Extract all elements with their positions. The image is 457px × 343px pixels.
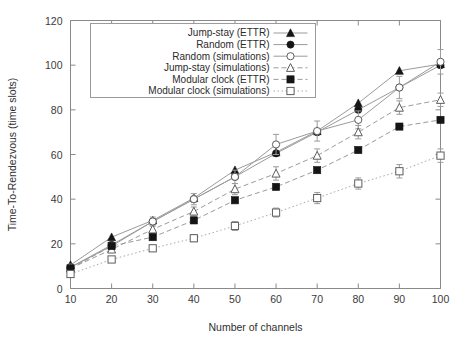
chart-legend: Jump-stay (ETTR)Random (ETTR)Random (sim…: [91, 24, 316, 98]
marker-filled-square: [287, 76, 294, 83]
marker-open-square: [396, 168, 403, 175]
x-tick-label: 80: [352, 293, 364, 305]
chart-plot: 020406080100120102030405060708090100 Jum…: [0, 0, 457, 343]
legend-label-1: Jump-stay (ETTR): [188, 27, 270, 38]
chart-container: 020406080100120102030405060708090100 Jum…: [0, 0, 457, 343]
series-5: [67, 116, 444, 272]
marker-open-triangle: [437, 96, 445, 104]
marker-filled-triangle: [108, 233, 116, 241]
y-tick-label: 20: [51, 238, 63, 250]
x-tick-label: 100: [432, 293, 450, 305]
x-tick-label: 60: [270, 293, 282, 305]
x-tick-label: 30: [147, 293, 159, 305]
marker-filled-square: [272, 183, 279, 190]
marker-open-circle: [437, 58, 444, 65]
marker-open-square: [67, 270, 74, 277]
y-tick-label: 60: [51, 149, 63, 161]
marker-filled-square: [437, 116, 444, 123]
marker-open-square: [272, 209, 279, 216]
legend-label-4: Jump-stay (simulations): [164, 62, 270, 73]
marker-open-square: [437, 152, 444, 159]
legend-label-6: Modular clock (simulations): [148, 85, 269, 96]
y-tick-label: 100: [45, 59, 63, 71]
series-line: [71, 120, 441, 269]
marker-filled-square: [314, 167, 321, 174]
y-tick-label: 40: [51, 193, 63, 205]
legend-label-5: Modular clock (ETTR): [172, 74, 269, 85]
marker-open-square: [287, 87, 294, 94]
y-tick-label: 80: [51, 104, 63, 116]
marker-open-circle: [190, 196, 197, 203]
marker-open-square: [108, 256, 115, 263]
marker-filled-triangle: [354, 99, 362, 107]
legend-label-2: Random (ETTR): [196, 39, 269, 50]
marker-open-circle: [396, 84, 403, 91]
marker-filled-square: [231, 197, 238, 204]
marker-open-square: [190, 235, 197, 242]
marker-open-triangle: [272, 169, 280, 177]
marker-open-square: [149, 245, 156, 252]
legend-label-3: Random (simulations): [172, 51, 269, 62]
marker-filled-circle: [287, 41, 294, 48]
series-line: [71, 100, 441, 269]
marker-open-circle: [149, 218, 156, 225]
marker-filled-square: [396, 123, 403, 130]
x-tick-label: 10: [65, 293, 77, 305]
x-tick-label: 50: [229, 293, 241, 305]
series-line: [71, 156, 441, 274]
x-tick-label: 40: [188, 293, 200, 305]
marker-open-square: [314, 194, 321, 201]
marker-open-square: [355, 180, 362, 187]
marker-filled-square: [355, 146, 362, 153]
x-tick-label: 90: [394, 293, 406, 305]
x-tick-label: 70: [311, 293, 323, 305]
y-axis-title: Time-To-Rendezvous (time slots): [6, 78, 18, 232]
marker-open-circle: [355, 116, 362, 123]
marker-open-triangle: [313, 151, 321, 159]
series-4: [67, 93, 445, 272]
marker-open-circle: [287, 53, 294, 60]
y-tick-label: 120: [45, 15, 63, 27]
marker-open-triangle: [190, 207, 198, 215]
x-tick-label: 20: [106, 293, 118, 305]
marker-open-circle: [314, 127, 321, 134]
marker-filled-square: [190, 217, 197, 224]
y-tick-label: 0: [57, 283, 63, 295]
marker-open-square: [231, 222, 238, 229]
marker-open-circle: [272, 141, 279, 148]
x-axis-title: Number of channels: [209, 321, 303, 333]
series-6: [67, 149, 444, 278]
marker-filled-square: [108, 242, 115, 249]
marker-open-triangle: [231, 185, 239, 193]
marker-open-circle: [231, 173, 238, 180]
marker-filled-square: [149, 234, 156, 241]
